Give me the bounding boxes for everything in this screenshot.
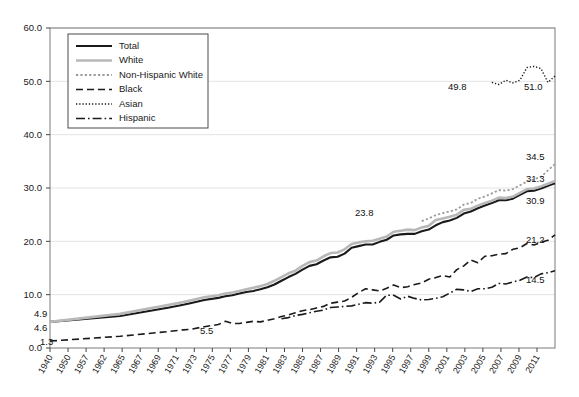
- legend-label: Hispanic: [119, 112, 156, 123]
- y-tick-label: 50.0: [24, 76, 43, 87]
- series-line-white: [50, 181, 555, 322]
- legend-label: Asian: [119, 98, 143, 109]
- y-axis-ticks: 0.010.020.030.040.050.060.0: [24, 22, 51, 353]
- x-tick-label: 1991: [343, 353, 362, 375]
- data-label: 1.3: [40, 336, 53, 347]
- legend-label: Total: [119, 40, 139, 51]
- x-tick-label: 2001: [433, 353, 452, 375]
- x-tick-label: 1989: [325, 353, 344, 375]
- data-label: 49.8: [448, 81, 467, 92]
- data-label: 51.0: [524, 81, 543, 92]
- data-label: 34.5: [526, 151, 545, 162]
- x-tick-label: 1983: [271, 353, 290, 375]
- legend-label: Non-Hispanic White: [119, 69, 203, 80]
- y-tick-label: 30.0: [24, 182, 43, 193]
- x-tick-label: 2005: [469, 353, 488, 375]
- x-tick-label: 1950: [54, 353, 73, 375]
- x-tick-label: 2003: [451, 353, 470, 375]
- x-tick-label: 2007: [487, 353, 506, 375]
- x-tick-label: 1993: [361, 353, 380, 375]
- x-tick-label: 2009: [505, 353, 524, 375]
- x-tick-label: 1973: [180, 353, 199, 375]
- x-axis-ticks: 1940195019571962196519671969197119731975…: [36, 348, 542, 375]
- data-label: 14.5: [526, 274, 545, 285]
- x-tick-label: 1969: [144, 353, 163, 375]
- legend-label: Black: [119, 83, 142, 94]
- x-tick-label: 1985: [289, 353, 308, 375]
- x-tick-label: 1981: [253, 353, 272, 375]
- data-label: 4.9: [34, 308, 47, 319]
- y-tick-label: 60.0: [24, 22, 43, 33]
- data-label: 30.9: [526, 195, 545, 206]
- x-tick-label: 1997: [397, 353, 416, 375]
- x-tick-label: 1995: [379, 353, 398, 375]
- x-tick-label: 1962: [90, 353, 109, 375]
- legend-label: White: [119, 54, 143, 65]
- data-label: 31.3: [526, 173, 545, 184]
- x-tick-label: 1987: [307, 353, 326, 375]
- y-tick-label: 40.0: [24, 129, 43, 140]
- x-tick-label: 1967: [126, 353, 145, 375]
- data-label: 5.5: [200, 325, 213, 336]
- x-tick-label: 1957: [72, 353, 91, 375]
- legend[interactable]: TotalWhiteNon-Hispanic WhiteBlackAsianHi…: [68, 34, 208, 128]
- x-tick-label: 1971: [162, 353, 181, 375]
- data-label: 4.6: [34, 322, 47, 333]
- x-tick-label: 1965: [108, 353, 127, 375]
- x-tick-label: 2011: [523, 353, 541, 375]
- x-tick-label: 1940: [36, 353, 55, 375]
- y-tick-label: 20.0: [24, 236, 43, 247]
- chart-container: 0.010.020.030.040.050.060.0 194019501957…: [0, 0, 579, 397]
- x-tick-label: 1975: [198, 353, 217, 375]
- x-tick-label: 1999: [415, 353, 434, 375]
- data-label: 21.2: [526, 234, 545, 245]
- y-tick-label: 10.0: [24, 289, 43, 300]
- x-tick-label: 1979: [234, 353, 253, 375]
- x-tick-label: 1977: [216, 353, 235, 375]
- data-label: 23.8: [355, 207, 374, 218]
- line-chart: 0.010.020.030.040.050.060.0 194019501957…: [0, 0, 579, 397]
